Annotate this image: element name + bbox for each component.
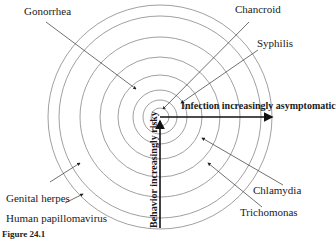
chlamydia-pointer bbox=[202, 138, 283, 185]
label-gonorrhea: Gonorrhea bbox=[24, 5, 71, 17]
figure-caption: Figure 24.1 bbox=[2, 229, 45, 239]
chancroid-pointer bbox=[163, 22, 249, 109]
syphilis-pointer bbox=[181, 50, 258, 103]
label-horizontal-axis: Infection increasingly asymptomatic bbox=[181, 100, 336, 111]
label-hpv: Human papillomavirus bbox=[6, 212, 107, 224]
gonorrhea-pointer bbox=[46, 22, 136, 89]
label-syphilis: Syphilis bbox=[257, 37, 293, 49]
label-vertical-axis: Behavior increasingly risky bbox=[148, 111, 159, 228]
label-chlamydia: Chlamydia bbox=[253, 184, 301, 196]
label-chancroid: Chancroid bbox=[235, 3, 281, 15]
label-genital-herpes: Genital herpes bbox=[6, 192, 70, 204]
label-trichomonas: Trichomonas bbox=[240, 206, 298, 218]
